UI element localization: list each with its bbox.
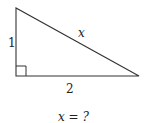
hypotenuse-label: x [78,26,85,40]
right-triangle [16,8,139,76]
vertical-side-label: 1 [8,36,16,50]
horizontal-side-label: 2 [66,82,74,96]
right-angle-marker [16,66,26,76]
question-text: x = ? [58,110,89,123]
triangle-diagram: 1 x 2 x = ? [0,0,148,123]
